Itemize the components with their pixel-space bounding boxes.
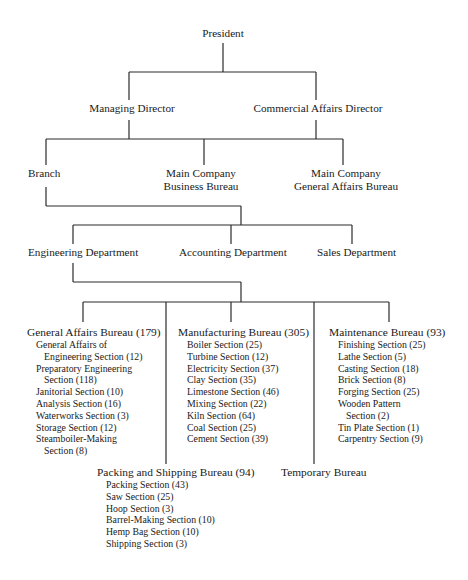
node-main-company-business-bureau: Main Company Business Bureau xyxy=(164,167,239,193)
section-label: Janitorial Section (10) xyxy=(36,386,123,397)
bureau-packing-shipping: Packing and Shipping Bureau (94) Packing… xyxy=(97,466,255,550)
section-label: Tin Plate Section (1) xyxy=(338,422,419,433)
section-label: Wooden Pattern xyxy=(338,398,401,409)
section-item: Brick Section (8) xyxy=(329,374,445,386)
section-label: Clay Section (35) xyxy=(187,374,256,385)
bureau-general-affairs: General Affairs Bureau (179) General Aff… xyxy=(27,326,161,457)
section-item: Carpentry Section (9) xyxy=(329,433,445,445)
section-item: Electricity Section (37) xyxy=(178,363,309,375)
node-label-line2: General Affairs Bureau xyxy=(294,180,398,193)
section-label: Finishing Section (25) xyxy=(338,339,426,350)
bureau-manufacturing: Manufacturing Bureau (305) Boiler Sectio… xyxy=(178,326,309,445)
bureau-title: Manufacturing Bureau (305) xyxy=(178,326,309,339)
section-label: Limestone Section (46) xyxy=(187,386,279,397)
section-list: General Affairs of Engineering Section (… xyxy=(27,339,161,457)
node-engineering-department: Engineering Department xyxy=(28,246,138,259)
section-label: General Affairs of xyxy=(36,339,107,350)
section-item: Tin Plate Section (1) xyxy=(329,422,445,434)
node-label: Managing Director xyxy=(89,102,174,114)
node-label: Branch xyxy=(28,167,60,179)
section-item: General Affairs of Engineering Section (… xyxy=(27,339,161,363)
node-sales-department: Sales Department xyxy=(317,246,396,259)
section-item: Steamboiler-Making Section (8) xyxy=(27,433,161,457)
section-item: Storage Section (12) xyxy=(27,422,161,434)
section-item: Lathe Section (5) xyxy=(329,351,445,363)
section-item: Waterworks Section (3) xyxy=(27,410,161,422)
section-item: Cement Section (39) xyxy=(178,433,309,445)
section-item: Coal Section (25) xyxy=(178,422,309,434)
section-label: Electricity Section (37) xyxy=(187,363,278,374)
node-label-line2: Business Bureau xyxy=(164,180,239,193)
node-label-line1: Main Company xyxy=(164,167,239,180)
section-item: Shipping Section (3) xyxy=(97,538,255,550)
section-label: Lathe Section (5) xyxy=(338,351,406,362)
section-label: Casting Section (18) xyxy=(338,363,419,374)
node-president: President xyxy=(202,27,244,40)
section-item: Mixing Section (22) xyxy=(178,398,309,410)
section-item: Janitorial Section (10) xyxy=(27,386,161,398)
section-list: Boiler Section (25) Turbine Section (12)… xyxy=(178,339,309,445)
section-item: Barrel-Making Section (10) xyxy=(97,514,255,526)
section-item: Forging Section (25) xyxy=(329,386,445,398)
section-label-cont: Section (2) xyxy=(338,410,445,422)
section-label: Shipping Section (3) xyxy=(106,538,187,549)
section-item: Hemp Bag Section (10) xyxy=(97,526,255,538)
bureau-title: General Affairs Bureau (179) xyxy=(27,326,161,339)
section-label: Preparatory Engineering xyxy=(36,363,132,374)
section-label-cont: Section (8) xyxy=(36,445,161,457)
node-label: Sales Department xyxy=(317,246,396,258)
section-item: Saw Section (25) xyxy=(97,491,255,503)
node-label: President xyxy=(202,27,244,39)
section-list: Finishing Section (25) Lathe Section (5)… xyxy=(329,339,445,445)
section-item: Casting Section (18) xyxy=(329,363,445,375)
node-commercial-affairs-director: Commercial Affairs Director xyxy=(253,102,382,115)
section-label: Packing Section (43) xyxy=(106,479,188,490)
section-item: Preparatory Engineering Section (118) xyxy=(27,363,161,387)
node-label-line1: Main Company xyxy=(294,167,398,180)
section-label: Steamboiler-Making xyxy=(36,433,117,444)
section-item: Packing Section (43) xyxy=(97,479,255,491)
node-managing-director: Managing Director xyxy=(89,102,174,115)
node-accounting-department: Accounting Department xyxy=(179,246,287,259)
section-item: Hoop Section (3) xyxy=(97,503,255,515)
section-item: Analysis Section (16) xyxy=(27,398,161,410)
section-item: Clay Section (35) xyxy=(178,374,309,386)
section-label: Turbine Section (12) xyxy=(187,351,268,362)
section-list: Packing Section (43) Saw Section (25) Ho… xyxy=(97,479,255,550)
section-label: Barrel-Making Section (10) xyxy=(106,514,215,525)
bureau-title: Packing and Shipping Bureau (94) xyxy=(97,466,255,479)
section-label: Boiler Section (25) xyxy=(187,339,262,350)
node-label: Engineering Department xyxy=(28,246,138,258)
section-label: Brick Section (8) xyxy=(338,374,405,385)
bureau-maintenance: Maintenance Bureau (93) Finishing Sectio… xyxy=(329,326,445,445)
section-label: Analysis Section (16) xyxy=(36,398,121,409)
section-label: Carpentry Section (9) xyxy=(338,433,423,444)
section-label: Coal Section (25) xyxy=(187,422,256,433)
node-label: Commercial Affairs Director xyxy=(253,102,382,114)
section-label: Saw Section (25) xyxy=(106,491,173,502)
section-item: Wooden Pattern Section (2) xyxy=(329,398,445,422)
section-item: Kiln Section (64) xyxy=(178,410,309,422)
bureau-title: Temporary Bureau xyxy=(281,466,367,479)
section-item: Boiler Section (25) xyxy=(178,339,309,351)
node-branch: Branch xyxy=(28,167,60,180)
section-item: Turbine Section (12) xyxy=(178,351,309,363)
section-label-cont: Engineering Section (12) xyxy=(36,351,161,363)
section-label: Cement Section (39) xyxy=(187,433,268,444)
section-item: Finishing Section (25) xyxy=(329,339,445,351)
bureau-title: Maintenance Bureau (93) xyxy=(329,326,445,339)
section-label: Hoop Section (3) xyxy=(106,503,173,514)
section-label: Forging Section (25) xyxy=(338,386,419,397)
bureau-temporary: Temporary Bureau xyxy=(281,466,367,479)
node-label: Accounting Department xyxy=(179,246,287,258)
section-label: Mixing Section (22) xyxy=(187,398,266,409)
section-label: Storage Section (12) xyxy=(36,422,117,433)
section-label: Waterworks Section (3) xyxy=(36,410,129,421)
section-item: Limestone Section (46) xyxy=(178,386,309,398)
section-label-cont: Section (118) xyxy=(36,374,161,386)
section-label: Kiln Section (64) xyxy=(187,410,255,421)
section-label: Hemp Bag Section (10) xyxy=(106,526,199,537)
node-main-company-general-affairs-bureau: Main Company General Affairs Bureau xyxy=(294,167,398,193)
